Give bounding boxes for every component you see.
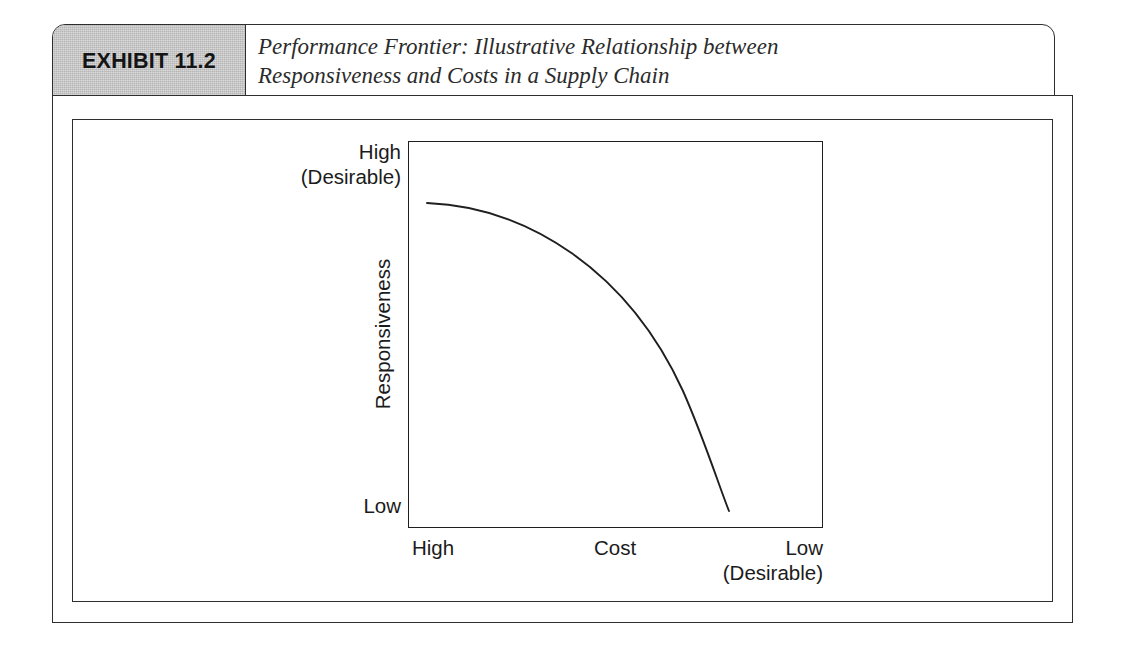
exhibit-figure: EXHIBIT 11.2 Performance Frontier: Illus… <box>0 0 1124 659</box>
exhibit-inner-border <box>72 119 1053 602</box>
exhibit-title: Performance Frontier: Illustrative Relat… <box>258 32 1044 90</box>
exhibit-title-bar: EXHIBIT 11.2 Performance Frontier: Illus… <box>52 24 1055 96</box>
exhibit-title-line-2: Responsiveness and Costs in a Supply Cha… <box>258 61 1044 90</box>
exhibit-number-tab: EXHIBIT 11.2 <box>53 25 246 95</box>
exhibit-title-line-1: Performance Frontier: Illustrative Relat… <box>258 32 1044 61</box>
exhibit-number-label: EXHIBIT 11.2 <box>82 49 216 74</box>
